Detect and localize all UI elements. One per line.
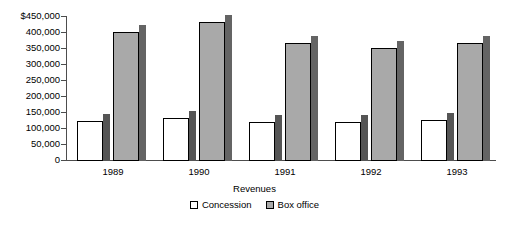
bar-top-face	[103, 114, 110, 121]
bar-group-1992	[335, 16, 407, 161]
x-tick-label-1990: 1990	[159, 166, 239, 177]
bar-boxoffice-1991	[285, 43, 311, 161]
legend-item-boxoffice: Box office	[266, 199, 320, 210]
y-tick-label: 250,000	[0, 75, 60, 85]
bar-front-face	[285, 43, 311, 161]
bar-side-face	[139, 32, 146, 161]
bar-group-1990	[163, 16, 235, 161]
y-tick-label: 300,000	[0, 59, 60, 69]
y-tick-label: 50,000	[0, 139, 60, 149]
bar-front-face	[199, 22, 225, 161]
y-tick-label: $450,000	[0, 11, 60, 21]
bar-top-face	[189, 111, 196, 118]
bar-group-1993	[421, 16, 493, 161]
bar-top-face	[275, 115, 282, 122]
legend-label-concession: Concession	[202, 199, 252, 210]
y-axis-tick	[61, 80, 66, 81]
y-axis-labels: $450,000 400,000 350,000 300,000 250,000…	[0, 0, 60, 175]
bar-top-face	[483, 36, 490, 43]
y-axis-tick	[61, 128, 66, 129]
bar-side-face	[103, 121, 110, 161]
plot-area	[67, 16, 496, 161]
bar-boxoffice-1989	[113, 32, 139, 161]
bar-side-face	[275, 122, 282, 161]
bar-top-face	[397, 41, 404, 48]
bar-concession-1991	[249, 122, 275, 161]
y-axis-tick	[61, 16, 66, 17]
y-axis-tick	[61, 160, 66, 161]
bar-side-face	[225, 22, 232, 161]
y-axis-tick	[61, 112, 66, 113]
bar-top-face	[225, 15, 232, 22]
y-axis-tick	[61, 32, 66, 33]
bar-concession-1992	[335, 122, 361, 161]
bar-top-face	[139, 25, 146, 32]
bar-side-face	[311, 43, 318, 161]
x-axis-title: Revenues	[0, 183, 509, 194]
bar-concession-1993	[421, 120, 447, 161]
bar-group-1989	[77, 16, 149, 161]
bar-top-face	[311, 36, 318, 43]
bar-front-face	[371, 48, 397, 161]
y-axis-tick	[61, 48, 66, 49]
bar-side-face	[397, 48, 404, 161]
bar-boxoffice-1990	[199, 22, 225, 161]
gray-square-swatch-icon	[266, 201, 274, 209]
bar-front-face	[77, 121, 103, 161]
bar-top-face	[361, 115, 368, 122]
y-axis-tick	[61, 144, 66, 145]
bar-side-face	[447, 120, 454, 161]
bar-side-face	[361, 122, 368, 161]
bar-side-face	[189, 118, 196, 161]
y-tick-label: 100,000	[0, 123, 60, 133]
bar-chart: $450,000 400,000 350,000 300,000 250,000…	[0, 0, 509, 229]
x-tick-label-1991: 1991	[245, 166, 325, 177]
bar-side-face	[483, 43, 490, 161]
white-square-swatch-icon	[190, 201, 198, 209]
bar-group-1991	[249, 16, 321, 161]
chart-legend: Concession Box office	[0, 199, 509, 210]
legend-item-concession: Concession	[190, 199, 252, 210]
bar-concession-1990	[163, 118, 189, 161]
bar-boxoffice-1993	[457, 43, 483, 161]
y-tick-label: 350,000	[0, 43, 60, 53]
x-tick-label-1992: 1992	[331, 166, 411, 177]
x-tick-label-1989: 1989	[73, 166, 153, 177]
y-tick-label: 200,000	[0, 91, 60, 101]
bar-top-face	[447, 113, 454, 120]
y-tick-label: 0	[0, 155, 60, 165]
legend-label-boxoffice: Box office	[278, 199, 320, 210]
bar-concession-1989	[77, 121, 103, 161]
x-axis-labels: 1989 1990 1991 1992 1993	[67, 166, 496, 180]
bar-boxoffice-1992	[371, 48, 397, 161]
x-tick-label-1993: 1993	[417, 166, 497, 177]
y-tick-label: 150,000	[0, 107, 60, 117]
bar-front-face	[335, 122, 361, 161]
y-axis-tick	[61, 64, 66, 65]
bar-front-face	[113, 32, 139, 161]
bar-front-face	[163, 118, 189, 161]
y-axis-tick	[61, 96, 66, 97]
bar-front-face	[249, 122, 275, 161]
bar-front-face	[457, 43, 483, 161]
bar-front-face	[421, 120, 447, 161]
y-tick-label: 400,000	[0, 27, 60, 37]
